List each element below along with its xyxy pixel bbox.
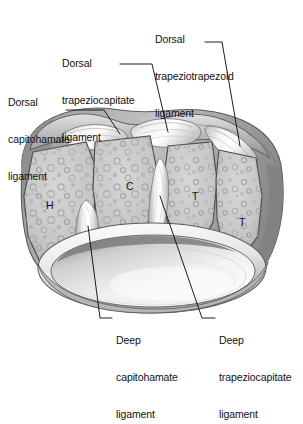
bone-label-capitate: C bbox=[126, 180, 134, 192]
label-dorsal-trapeziotrapezoid-line2: trapeziotrapezoid bbox=[155, 70, 234, 82]
label-dorsal-capitohamate: Dorsal capitohamate ligament bbox=[8, 72, 70, 194]
bone-label-hamate: H bbox=[46, 199, 54, 211]
label-deep-trapeziocapitate: Deep trapeziocapitate ligament bbox=[219, 310, 292, 424]
label-dorsal-trapeziotrapezoid-line3: ligament bbox=[155, 107, 234, 119]
label-deep-capitohamate-line2: capitohamate bbox=[116, 371, 178, 383]
label-dorsal-trapeziocapitate-line2: trapeziocapitate bbox=[62, 94, 135, 106]
label-deep-capitohamate-line3: ligament bbox=[116, 408, 178, 420]
label-dorsal-trapeziocapitate-line3: ligament bbox=[62, 131, 135, 143]
label-dorsal-capitohamate-line2: capitohamate bbox=[8, 133, 70, 145]
bone-label-trapezoid: T bbox=[192, 190, 198, 202]
label-deep-capitohamate-line1: Deep bbox=[116, 334, 178, 346]
label-deep-trapeziocapitate-line3: ligament bbox=[219, 408, 292, 420]
label-deep-trapeziocapitate-line2: trapeziocapitate bbox=[219, 371, 292, 383]
label-dorsal-trapeziotrapezoid: Dorsal trapeziotrapezoid ligament bbox=[155, 9, 234, 131]
label-dorsal-trapeziotrapezoid-line1: Dorsal bbox=[155, 33, 234, 45]
label-dorsal-capitohamate-line3: ligament bbox=[8, 170, 70, 182]
label-deep-trapeziocapitate-line1: Deep bbox=[219, 334, 292, 346]
label-dorsal-trapeziocapitate: Dorsal trapeziocapitate ligament bbox=[62, 33, 135, 155]
bone-label-trapezium: T bbox=[239, 216, 245, 228]
label-dorsal-trapeziocapitate-line1: Dorsal bbox=[62, 57, 135, 69]
label-deep-capitohamate: Deep capitohamate ligament bbox=[116, 310, 178, 424]
label-dorsal-capitohamate-line1: Dorsal bbox=[8, 96, 70, 108]
